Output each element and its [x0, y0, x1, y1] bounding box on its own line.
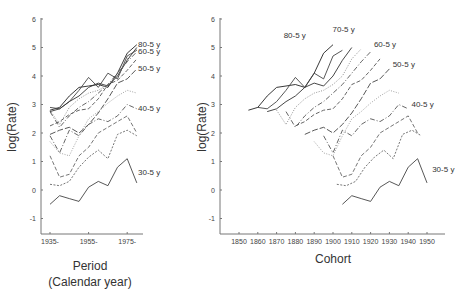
chart-canvas: -10123456 1935-1955-1975- 80-5 y60-5 y50… [0, 0, 464, 292]
y-tick-label: 1 [32, 158, 36, 165]
series-line [50, 116, 137, 177]
right-series-lines [248, 45, 427, 205]
y-tick-label: 1 [211, 158, 215, 165]
series-line [50, 105, 137, 153]
series-line [324, 105, 409, 153]
series-line [50, 50, 137, 109]
left-y-axis [41, 18, 143, 234]
x-tick-label: 1935- [41, 238, 60, 245]
right-series-labels: 80-5 y70-5 y60-5 y50-5 y40-5 y30-5 y [284, 25, 455, 174]
y-tick-label: -1 [30, 215, 36, 222]
right-x-axis-label: Cohort [315, 252, 352, 266]
y-tick-label: 0 [32, 187, 36, 194]
series-label: 50-5 y [393, 60, 415, 69]
left-series-labels: 80-5 y60-5 y50-5 y40-5 y30-5 y [138, 40, 160, 177]
x-tick-label: 1930 [382, 238, 398, 245]
series-line [50, 69, 137, 134]
series-line [305, 69, 390, 134]
series-line [248, 45, 333, 111]
series-line [286, 52, 371, 128]
y-tick-label: 6 [32, 16, 36, 23]
x-tick-label: 1955- [80, 238, 99, 245]
series-label: 40-5 y [411, 100, 433, 109]
series-label: 70-5 y [333, 25, 355, 34]
y-tick-label: 5 [211, 44, 215, 51]
y-tick-label: 4 [211, 73, 215, 80]
series-label: 60-5 y [138, 47, 160, 56]
x-tick-label: 1950 [419, 238, 435, 245]
x-tick-label: 1910 [344, 238, 360, 245]
y-tick-label: 3 [211, 101, 215, 108]
right-y-axis-label: log(Rate) [195, 102, 209, 151]
series-label: 80-5 y [284, 31, 306, 40]
series-label: 30-5 y [432, 165, 454, 174]
x-tick-label: 1920 [363, 238, 379, 245]
series-line [277, 49, 362, 125]
left-x-axis-label-line1: Period [73, 259, 108, 273]
series-label: 50-5 y [138, 64, 160, 73]
series-label: 60-5 y [374, 40, 396, 49]
series-line [50, 159, 137, 205]
y-tick-label: 2 [32, 130, 36, 137]
series-line [50, 45, 137, 111]
y-tick-label: 2 [211, 130, 215, 137]
cohort-chart: -10123456 185018601870188018901900191019… [195, 16, 454, 267]
y-tick-label: 0 [211, 187, 215, 194]
x-tick-label: 1850 [231, 238, 247, 245]
x-tick-label: 1900 [325, 238, 341, 245]
y-tick-label: 6 [211, 16, 215, 23]
x-tick-label: 1940 [400, 238, 416, 245]
series-line [333, 116, 418, 177]
series-line [50, 130, 137, 186]
y-tick-label: -1 [209, 215, 215, 222]
y-tick-label: 3 [32, 101, 36, 108]
period-chart: -10123456 1935-1955-1975- 80-5 y60-5 y50… [5, 16, 160, 290]
series-label: 30-5 y [138, 168, 160, 177]
x-tick-label: 1870 [269, 238, 285, 245]
left-y-axis-label: log(Rate) [5, 102, 19, 151]
x-tick-label: 1880 [288, 238, 304, 245]
y-tick-label: 4 [32, 73, 36, 80]
x-tick-label: 1975- [118, 238, 137, 245]
left-x-axis-label-line2: (Calendar year) [48, 275, 131, 289]
x-tick-label: 1860 [250, 238, 266, 245]
series-line [50, 48, 137, 112]
x-tick-label: 1890 [306, 238, 322, 245]
y-tick-label: 5 [32, 44, 36, 51]
series-label: 40-5 y [138, 104, 160, 113]
right-y-axis [220, 18, 445, 234]
left-series-lines [50, 45, 137, 205]
series-line [314, 90, 399, 156]
series-line [337, 130, 422, 186]
